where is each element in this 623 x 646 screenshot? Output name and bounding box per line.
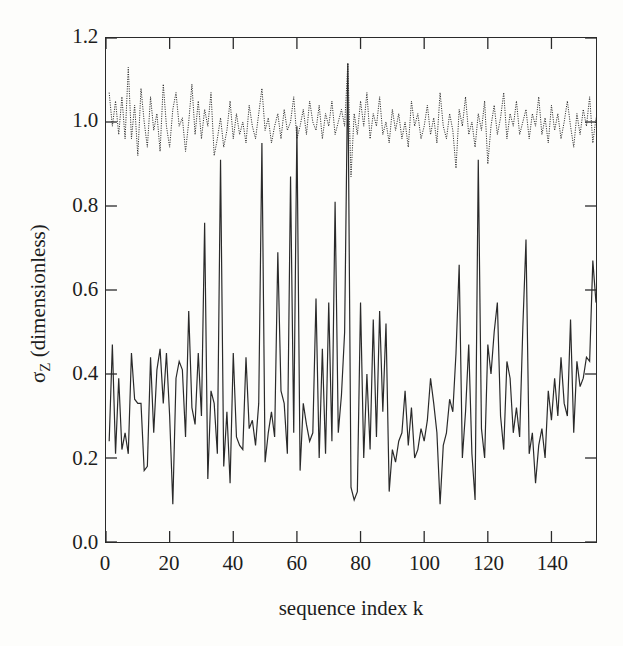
figure-canvas: 0.00.20.40.60.81.01.2 020406080100120140…: [0, 0, 623, 646]
x-tick-label: 0: [100, 553, 110, 574]
data-series-group: [109, 63, 596, 504]
x-tick-label: 20: [159, 553, 180, 574]
y-tick-label: 0.4: [72, 363, 98, 384]
x-tick-label: 60: [286, 553, 307, 574]
x-tick-label: 80: [350, 553, 371, 574]
sigma-subscript: Z: [37, 362, 53, 371]
sigma-symbol: σ: [26, 372, 50, 383]
x-tick-label: 40: [222, 553, 243, 574]
y-tick-label: 1.2: [72, 26, 98, 47]
y-tick-label: 0.2: [72, 448, 98, 469]
y-tick-label: 0.6: [72, 279, 98, 300]
x-axis-tick-labels: 020406080100120140: [0, 553, 623, 583]
lower-solid-series: [109, 63, 596, 504]
x-tick-label: 120: [473, 553, 504, 574]
x-tick-label: 100: [409, 553, 440, 574]
y-tick-label: 0.8: [72, 195, 98, 216]
y-tick-label: 0.0: [72, 532, 98, 553]
plot-svg: [106, 38, 596, 542]
x-tick-label: 140: [537, 553, 568, 574]
plot-area: [105, 37, 597, 543]
y-axis-title-suffix: (dimensionless): [26, 224, 50, 362]
x-axis-title: sequence index k: [105, 596, 597, 621]
y-tick-label: 1.0: [72, 110, 98, 131]
y-axis-title: σZ (dimensionless): [26, 144, 53, 464]
upper-dotted-series: [109, 63, 596, 176]
